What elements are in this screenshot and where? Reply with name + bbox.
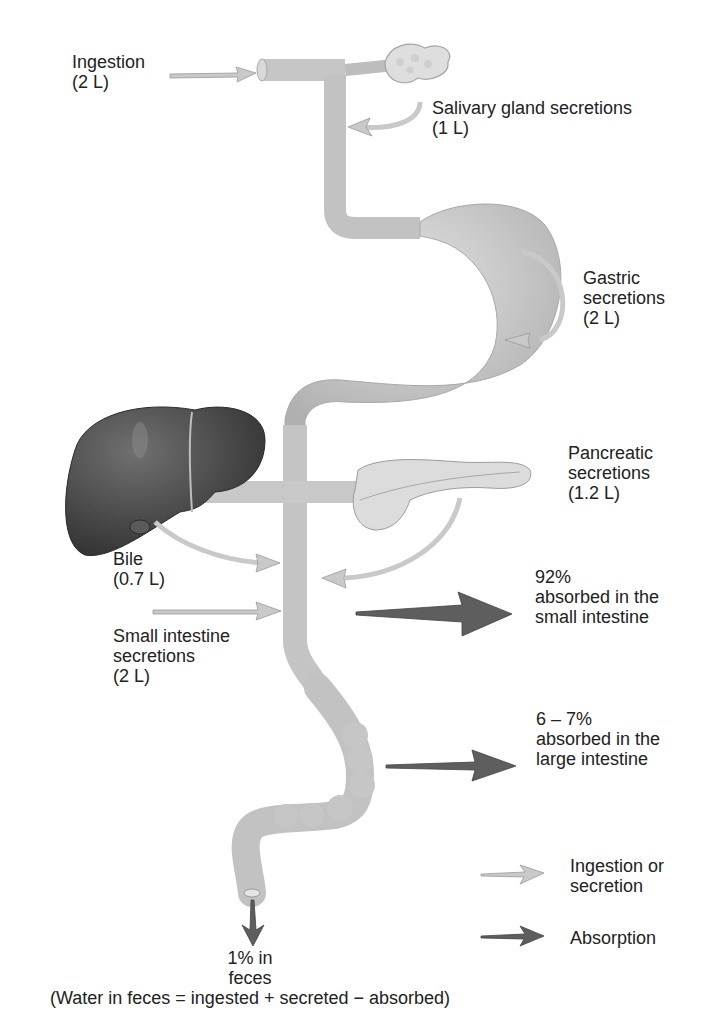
large-absorption-label: 6 – 7% absorbed in the large intestine — [536, 709, 660, 769]
legend-dark-gray-arrow-icon — [481, 926, 544, 946]
large-intestine — [244, 688, 375, 897]
feces-arrow-icon — [242, 900, 264, 946]
salivary-gland — [385, 44, 450, 82]
feces-label: 1% in feces (Water in feces = ingested +… — [0, 948, 500, 1008]
ingestion-label: Ingestion (2 L) — [72, 52, 145, 92]
ingestion-arrow-icon — [170, 67, 256, 82]
salivary-secretion-arrow-icon — [348, 102, 420, 136]
large-absorption-arrow-icon — [386, 750, 516, 781]
bile-label: Bile (0.7 L) — [113, 549, 165, 589]
small-intestine-secretion-arrow-icon — [153, 602, 281, 620]
stomach — [285, 204, 561, 430]
gallbladder — [130, 520, 150, 534]
legend-item-ingestion-or-secretion: Ingestion or secretion — [570, 856, 664, 896]
small-absorption-label: 92% absorbed in the small intestine — [535, 567, 659, 627]
salivary-label: Salivary gland secretions (1 L) — [432, 98, 632, 138]
small-absorption-arrow-icon — [356, 592, 512, 636]
gastric-label: Gastric secretions (2 L) — [583, 268, 665, 328]
esophagus — [257, 59, 420, 228]
small-intestine-secretions-label: Small intestine secretions (2 L) — [113, 626, 230, 686]
pancreas — [353, 460, 531, 530]
bile-arrow-icon — [155, 522, 280, 572]
legend-item-absorption: Absorption — [570, 928, 656, 948]
legend-light-gray-arrow-icon — [481, 865, 544, 884]
pancreatic-label: Pancreatic secretions (1.2 L) — [568, 443, 653, 503]
